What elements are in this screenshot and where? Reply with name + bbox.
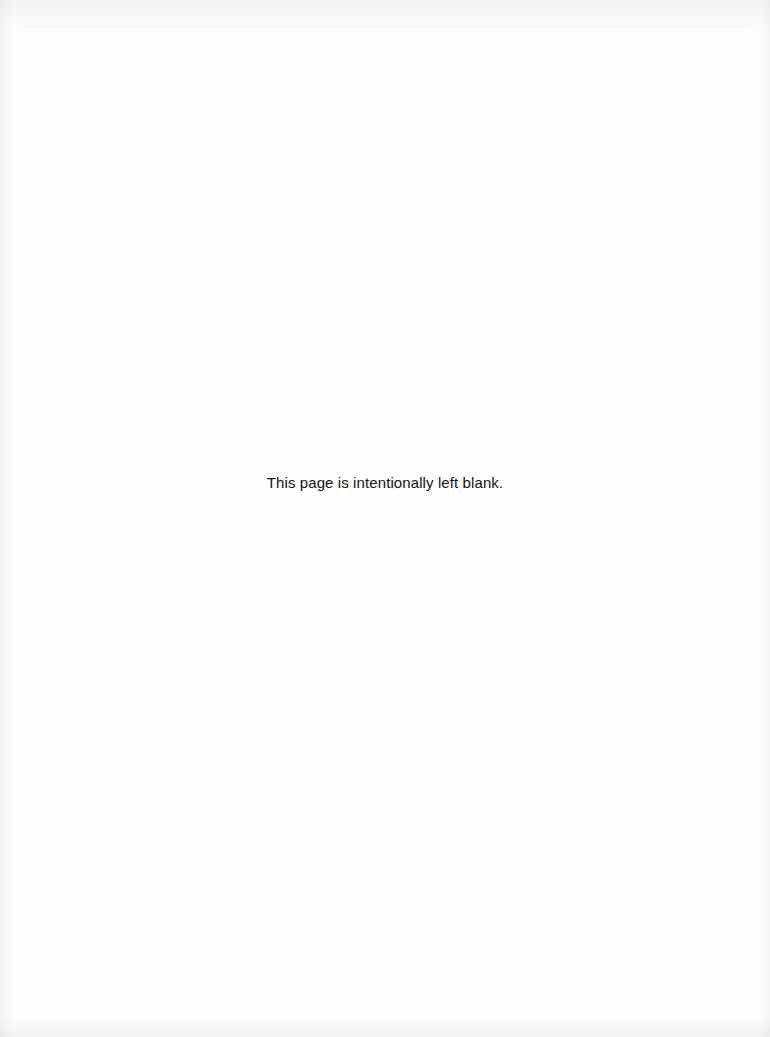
- bleed-through-line: [20, 26, 750, 27]
- bleed-through-line: [20, 1020, 750, 1021]
- blank-page-notice: This page is intentionally left blank.: [0, 473, 770, 493]
- blank-page: This page is intentionally left blank.: [0, 0, 770, 1037]
